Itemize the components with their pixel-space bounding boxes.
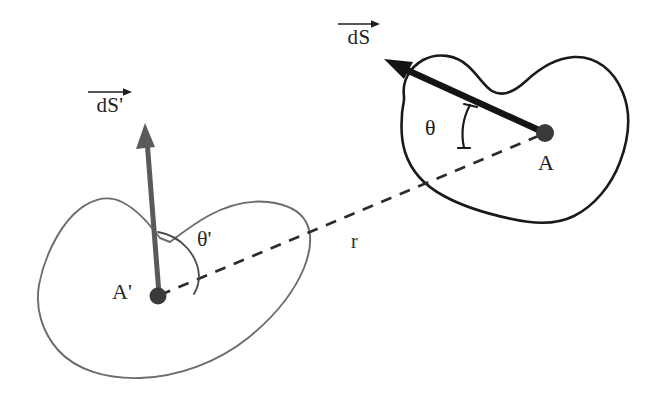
normal-vector-dsprime-arrowhead xyxy=(136,123,155,149)
label-distance-r: r xyxy=(351,231,358,251)
angle-arc-theta xyxy=(463,105,470,148)
angle-arc-theta-prime xyxy=(158,232,199,294)
label-ds-vector: dS xyxy=(336,16,382,48)
label-point-a: A xyxy=(538,152,554,174)
surface-blob-left xyxy=(38,198,310,378)
separation-line-r xyxy=(160,134,543,295)
figure-canvas: dS dS' θ θ' A A' r xyxy=(0,0,656,398)
label-ds-text: dS xyxy=(336,27,382,48)
label-ds-prime-text: dS' xyxy=(86,95,134,116)
label-point-a-prime: A' xyxy=(112,281,132,303)
diagram-svg xyxy=(0,0,656,398)
normal-vector-ds-shaft xyxy=(398,66,543,132)
label-theta-prime: θ' xyxy=(197,228,212,250)
normal-vector-dsprime-shaft xyxy=(147,140,159,294)
point-a-prime-dot xyxy=(150,288,167,305)
label-ds-prime-vector: dS' xyxy=(86,84,134,116)
label-theta: θ xyxy=(425,117,436,139)
point-a-dot xyxy=(536,124,554,142)
